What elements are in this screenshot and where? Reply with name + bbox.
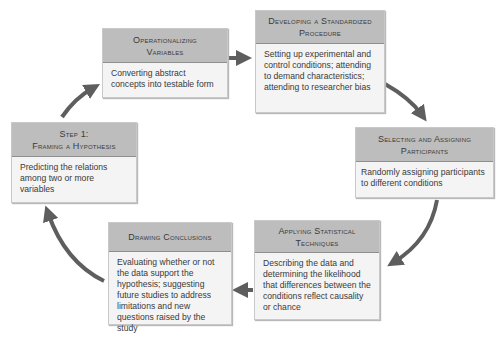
step-title-line: Participants xyxy=(401,145,449,157)
step-title: Operationalizing Variables xyxy=(103,29,227,63)
step-description: Evaluating whether or not the data suppo… xyxy=(109,252,231,324)
step-selecting-participants: Selecting and Assigning Participants Ran… xyxy=(355,127,494,198)
step-title-line: Developing a Standardized xyxy=(268,15,371,27)
step-developing-procedure: Developing a Standardized Procedure Sett… xyxy=(255,10,385,113)
step-title-line: Procedure xyxy=(299,27,341,39)
step-title-line: Applying Statistical xyxy=(278,225,355,237)
step-description: Describing the data and determining the … xyxy=(255,253,379,319)
curved-arrow-icon xyxy=(48,213,104,281)
step-description: Predicting the relations among two or mo… xyxy=(12,157,136,202)
step-title: Selecting and Assigning Participants xyxy=(356,128,493,162)
step-title-line: Operationalizing xyxy=(133,34,197,46)
step-title: Step 1: Framing a Hypothesis xyxy=(12,123,136,157)
step-title: Applying Statistical Techniques xyxy=(255,221,379,253)
step-title: Developing a Standardized Procedure xyxy=(256,11,384,44)
step-title-line: Variables xyxy=(146,46,183,58)
step-applying-statistics: Applying Statistical Techniques Describi… xyxy=(254,220,380,320)
step-operationalizing-variables: Operationalizing Variables Converting ab… xyxy=(102,28,228,98)
step-description: Randomly assigning participants to diffe… xyxy=(356,162,493,197)
step-drawing-conclusions: Drawing Conclusions Evaluating whether o… xyxy=(108,222,232,325)
step-title-line: Selecting and Assigning xyxy=(378,133,471,145)
curved-arrow-icon xyxy=(385,84,422,115)
step-description: Setting up experimental and control cond… xyxy=(256,44,384,112)
step-description: Converting abstract concepts into testab… xyxy=(103,63,227,97)
step-title-line: Drawing Conclusions xyxy=(128,231,211,243)
step-title: Drawing Conclusions xyxy=(109,223,231,252)
step-framing-hypothesis: Step 1: Framing a Hypothesis Predicting … xyxy=(11,122,137,203)
curved-arrow-icon xyxy=(62,88,93,117)
step-title-line: Step 1: xyxy=(59,128,88,140)
step-title-line: Techniques xyxy=(295,237,338,249)
curved-arrow-icon xyxy=(394,200,437,262)
step-title-line: Framing a Hypothesis xyxy=(32,140,115,152)
